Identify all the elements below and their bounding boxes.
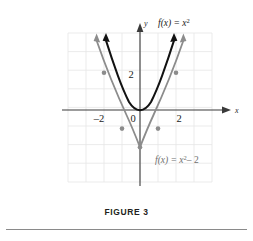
graph-svg: x y –2 0 2 2 [0, 0, 253, 200]
label-primary-text: f(x) = x [158, 18, 187, 29]
x-tick-label-neg2: –2 [93, 113, 105, 124]
bottom-divider [6, 229, 247, 230]
y-axis-label: y [143, 19, 148, 28]
label-f-x-squared: f(x) = x2 [158, 17, 190, 29]
y-axis [137, 23, 144, 186]
label-f-x-squared-minus-2: f(x) = x2– 2 [155, 154, 199, 166]
arrowhead-secondary-right [180, 34, 187, 43]
svg-text:f(x) = x2– 2: f(x) = x2– 2 [155, 154, 199, 166]
svg-text:f(x) = x2: f(x) = x2 [158, 17, 190, 29]
figure-container: x y –2 0 2 2 [0, 0, 253, 241]
label-primary-exponent: 2 [187, 17, 190, 24]
figure-caption: FIGURE 3 [104, 207, 148, 217]
arrowhead-secondary-left [94, 34, 101, 43]
figure-caption-wrap: FIGURE 3 [0, 201, 253, 219]
x-axis-label: x [234, 106, 239, 115]
label-secondary-suffix: – 2 [186, 155, 199, 165]
origin-label: 0 [130, 113, 135, 124]
y-tick-label-2: 2 [128, 69, 133, 80]
plot-area: x y –2 0 2 2 [0, 0, 253, 200]
label-secondary-prefix: f(x) = x [155, 155, 184, 166]
x-tick-label-pos2: 2 [176, 113, 181, 124]
